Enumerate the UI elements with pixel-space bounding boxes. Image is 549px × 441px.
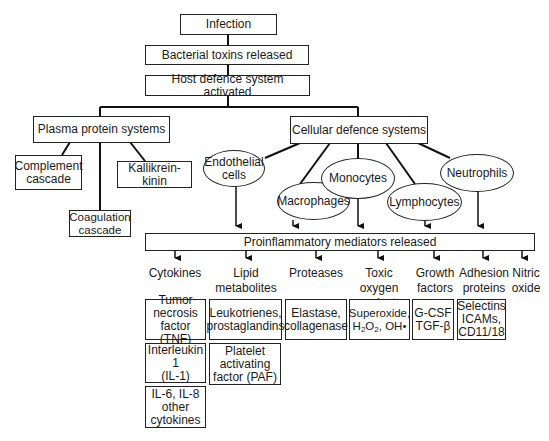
cellular-defence-box: Cellular defence systems xyxy=(290,116,428,144)
coagulation-cascade-label: Coagulation cascade xyxy=(69,211,130,237)
il6-il8-label: IL-6, IL-8 other cytokines xyxy=(150,388,200,427)
category-adhesion-proteins: Adhesion proteins xyxy=(459,266,509,296)
growth-factors-box: G-CSF TGF-β xyxy=(412,299,454,340)
superoxide-label: Superoxide, H2O2, OH• xyxy=(349,307,410,333)
lymphocytes-label: Lymphocytes xyxy=(389,196,459,209)
category-cytokines: Cytokines xyxy=(145,266,205,281)
growth-factors-label: G-CSF TGF-β xyxy=(414,307,451,333)
tnf-label: Tumor necrosis factor (TNF) xyxy=(146,294,205,346)
leukotrienes-label: Leukotrienes, prostaglandins xyxy=(206,307,284,333)
bacterial-toxins-box: Bacterial toxins released xyxy=(145,45,309,65)
category-nitric-oxide: Nitric oxide xyxy=(508,266,544,296)
plasma-protein-label: Plasma protein systems xyxy=(38,123,165,136)
paf-box: Platelet activating factor (PAF) xyxy=(209,343,281,385)
superoxide-box: Superoxide, H2O2, OH• xyxy=(349,299,410,340)
infection-box: Infection xyxy=(180,14,277,35)
il1-label: Interleukin 1 (IL-1) xyxy=(146,344,205,383)
elastase-box: Elastase, collagenase xyxy=(285,299,347,340)
monocytes-label: Monocytes xyxy=(329,172,387,185)
lymphocytes-node: Lymphocytes xyxy=(387,183,462,221)
infection-label: Infection xyxy=(206,18,251,31)
il6-il8-box: IL-6, IL-8 other cytokines xyxy=(145,386,206,428)
tnf-box: Tumor necrosis factor (TNF) xyxy=(145,299,206,340)
monocytes-node: Monocytes xyxy=(321,158,395,199)
adhesion-proteins-label: Selectins ICAMs, CD11/18 xyxy=(457,300,506,339)
leukotrienes-box: Leukotrienes, prostaglandins xyxy=(209,299,282,340)
coagulation-cascade-box: Coagulation cascade xyxy=(69,210,131,237)
cellular-defence-label: Cellular defence systems xyxy=(292,124,426,137)
paf-label: Platelet activating factor (PAF) xyxy=(213,345,277,384)
category-growth-factors: Growth factors xyxy=(412,266,458,296)
macrophages-label: Macrophages xyxy=(277,195,350,208)
host-defence-label: Host defence system activated xyxy=(146,73,309,99)
proinflammatory-mediators-label: Proinflammatory mediators released xyxy=(244,236,437,249)
endothelial-cells-node: Endothelial cells xyxy=(203,150,265,187)
category-lipid-metabolites: Lipid metabolites xyxy=(211,266,281,296)
complement-cascade-label: Complement cascade xyxy=(14,160,82,186)
kallikrein-kinin-box: Kallikrein-kinin xyxy=(117,161,192,188)
plasma-protein-box: Plasma protein systems xyxy=(33,116,170,143)
proinflammatory-mediators-box: Proinflammatory mediators released xyxy=(145,233,535,251)
adhesion-proteins-box: Selectins ICAMs, CD11/18 xyxy=(457,299,506,340)
complement-cascade-box: Complement cascade xyxy=(15,155,82,190)
endothelial-cells-label: Endothelial cells xyxy=(204,156,263,182)
il1-box: Interleukin 1 (IL-1) xyxy=(145,343,206,383)
elastase-label: Elastase, collagenase xyxy=(284,307,348,333)
kallikrein-kinin-label: Kallikrein-kinin xyxy=(118,162,191,188)
bacterial-toxins-label: Bacterial toxins released xyxy=(162,49,293,62)
category-proteases: Proteases xyxy=(286,266,346,281)
neutrophils-label: Neutrophils xyxy=(447,167,508,180)
neutrophils-node: Neutrophils xyxy=(440,154,514,192)
host-defence-box: Host defence system activated xyxy=(145,75,310,96)
